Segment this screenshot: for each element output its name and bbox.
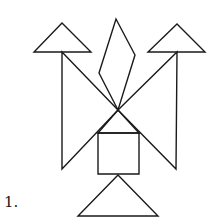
left-large-triangle [62, 52, 118, 169]
tangram-figure [0, 0, 215, 223]
top-right-small-triangle [148, 24, 205, 52]
square [98, 133, 139, 174]
top-left-small-triangle [34, 23, 91, 52]
figure-number-label: 1. [4, 193, 18, 211]
bottom-triangle [78, 175, 158, 216]
center-medium-triangle [98, 110, 139, 133]
right-large-triangle [118, 52, 177, 169]
